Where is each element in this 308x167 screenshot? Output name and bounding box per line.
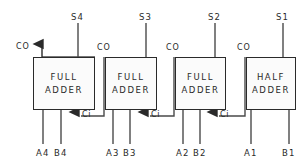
carry-out-label-stage-3: CO	[166, 43, 180, 52]
carry-in-label-stage-3: Ci	[151, 110, 160, 119]
adder-block-stage-1[interactable]: HALF ADDER	[246, 57, 296, 110]
adder-block-stage-4[interactable]: FULL ADDER	[33, 57, 95, 110]
sum-label-s4: S4	[71, 12, 84, 22]
adder-block-label-line2: ADDER	[181, 84, 219, 97]
input-label-a3: A3	[106, 148, 119, 158]
adder-block-label-line2: ADDER	[252, 84, 290, 97]
adder-block-label-line1: HALF	[257, 71, 285, 84]
input-label-b2: B2	[193, 148, 206, 158]
circuit-diagram-canvas: FULL ADDER FULL ADDER FULL ADDER HALF AD…	[0, 0, 308, 167]
sum-label-s2: S2	[208, 12, 221, 22]
input-label-a1: A1	[244, 148, 257, 158]
adder-block-stage-2[interactable]: FULL ADDER	[175, 57, 226, 110]
carry-out-label-stage-4: CO	[97, 43, 111, 52]
adder-block-label-line1: FULL	[118, 71, 145, 84]
input-label-a2: A2	[176, 148, 189, 158]
input-label-b4: B4	[54, 148, 67, 158]
input-label-b1: B1	[282, 148, 295, 158]
input-label-a4: A4	[36, 148, 49, 158]
carry-out-label-stage-2: CO	[237, 43, 251, 52]
adder-block-label-line2: ADDER	[112, 84, 150, 97]
carry-in-label-stage-2: Ci	[220, 110, 229, 119]
sum-label-s1: S1	[276, 12, 289, 22]
carry-in-label-stage-4: Ci	[82, 110, 91, 119]
input-label-b3: B3	[123, 148, 136, 158]
adder-block-label-line1: FULL	[187, 71, 214, 84]
adder-block-label-line2: ADDER	[45, 84, 83, 97]
adder-block-stage-3[interactable]: FULL ADDER	[105, 57, 157, 110]
carry-out-label-final: CO	[16, 42, 30, 51]
adder-block-label-line1: FULL	[51, 71, 78, 84]
sum-label-s3: S3	[139, 12, 152, 22]
